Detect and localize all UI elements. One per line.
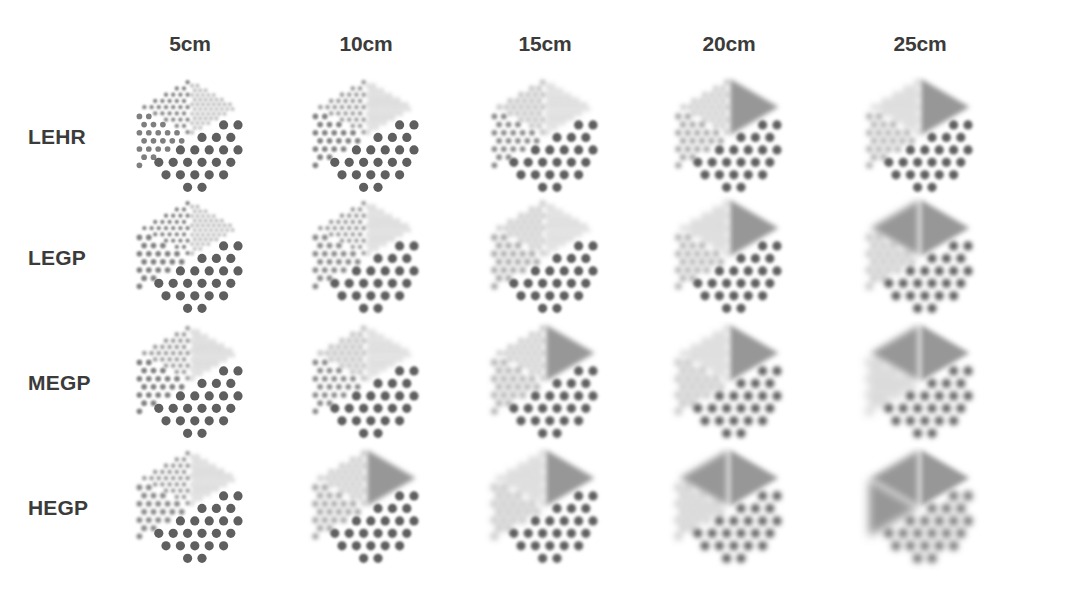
- phantom-cell-hegp-d15: [465, 446, 625, 570]
- phantom-cell-megp-d25: [840, 321, 1000, 445]
- column-header-d15: 15cm: [519, 32, 572, 56]
- phantom-sector-1: [318, 201, 366, 255]
- phantom-cell-megp-d10: [286, 321, 446, 445]
- phantom-cell-megp-d20: [649, 321, 809, 445]
- phantom-sector-0: [921, 200, 969, 256]
- phantom-sector-1: [497, 451, 545, 505]
- phantom-cell-legp-d15: [465, 196, 625, 320]
- phantom-sector-0: [730, 325, 778, 381]
- row-label-legp: LEGP: [28, 246, 86, 270]
- phantom-sector-1: [142, 451, 190, 505]
- phantom-sector-1: [497, 80, 545, 134]
- phantom-cell-lehr-d20: [649, 75, 809, 199]
- column-header-d25: 25cm: [894, 32, 947, 56]
- phantom-sector-0: [921, 325, 969, 381]
- phantom-sector-1: [681, 80, 729, 134]
- phantom-cell-legp-d10: [286, 196, 446, 320]
- phantom-cell-hegp-d20: [649, 446, 809, 570]
- phantom-sector-0: [921, 79, 969, 135]
- row-label-megp: MEGP: [28, 371, 91, 395]
- phantom-cell-legp-d20: [649, 196, 809, 320]
- phantom-cell-megp-d15: [465, 321, 625, 445]
- column-header-d10: 10cm: [340, 32, 393, 56]
- row-label-lehr: LEHR: [28, 125, 86, 149]
- phantom-sector-1: [681, 326, 729, 380]
- phantom-cell-hegp-d10: [286, 446, 446, 570]
- phantom-sector-0: [730, 450, 778, 506]
- phantom-sector-1: [872, 80, 920, 134]
- phantom-sector-1: [142, 80, 190, 134]
- phantom-cell-megp-d5: [110, 321, 270, 445]
- phantom-sector-0: [730, 200, 778, 256]
- phantom-cell-hegp-d25: [840, 446, 1000, 570]
- phantom-cell-lehr-d5: [110, 75, 270, 199]
- phantom-sector-1: [497, 201, 545, 255]
- phantom-sector-1: [318, 80, 366, 134]
- phantom-sector-0: [730, 79, 778, 135]
- phantom-sector-0: [367, 450, 415, 506]
- phantom-cell-hegp-d5: [110, 446, 270, 570]
- phantom-cell-legp-d25: [840, 196, 1000, 320]
- column-header-d5: 5cm: [169, 32, 210, 56]
- phantom-sector-1: [318, 451, 366, 505]
- phantom-cell-lehr-d15: [465, 75, 625, 199]
- phantom-sector-1: [497, 326, 545, 380]
- phantom-cell-lehr-d10: [286, 75, 446, 199]
- column-header-d20: 20cm: [703, 32, 756, 56]
- phantom-cell-lehr-d25: [840, 75, 1000, 199]
- phantom-sector-1: [142, 326, 190, 380]
- phantom-cell-legp-d5: [110, 196, 270, 320]
- phantom-sector-1: [681, 201, 729, 255]
- phantom-sector-0: [546, 325, 594, 381]
- phantom-sector-1: [318, 326, 366, 380]
- phantom-sector-0: [921, 450, 969, 506]
- row-label-hegp: HEGP: [28, 496, 88, 520]
- phantom-sector-0: [546, 450, 594, 506]
- phantom-sector-1: [142, 201, 190, 255]
- figure-root: 5cm10cm15cm20cm25cm LEHRLEGPMEGPHEGP: [0, 0, 1078, 600]
